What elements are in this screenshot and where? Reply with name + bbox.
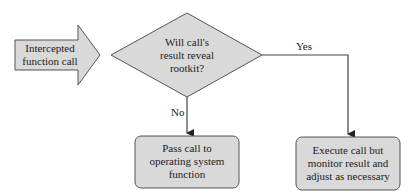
pass-call-label-line: function bbox=[135, 168, 239, 181]
no-edge-label: No bbox=[171, 106, 184, 118]
decision-label-line: result reveal bbox=[142, 49, 232, 62]
decision-label-line: rootkit? bbox=[142, 62, 232, 75]
pass-call-label: Pass call to operating system function bbox=[135, 142, 239, 181]
yes-connector bbox=[262, 55, 348, 134]
input-label-line: Intercepted bbox=[15, 42, 85, 55]
execute-call-label-line: monitor result and bbox=[296, 157, 400, 170]
input-label-line: function call bbox=[15, 55, 85, 68]
execute-call-label-line: Execute call but bbox=[296, 144, 400, 157]
input-label: Intercepted function call bbox=[15, 42, 85, 68]
pass-call-label-line: Pass call to bbox=[135, 142, 239, 155]
execute-call-label: Execute call but monitor result and adju… bbox=[296, 144, 400, 183]
execute-call-label-line: adjust as necessary bbox=[296, 170, 400, 183]
pass-call-label-line: operating system bbox=[135, 155, 239, 168]
yes-edge-label: Yes bbox=[296, 40, 312, 52]
decision-label: Will call's result reveal rootkit? bbox=[142, 36, 232, 75]
decision-label-line: Will call's bbox=[142, 36, 232, 49]
